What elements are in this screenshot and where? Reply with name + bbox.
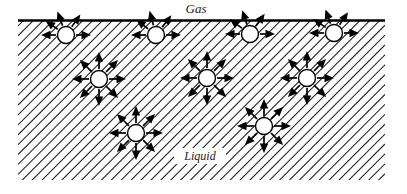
interior-molecule-3-body [299, 70, 316, 87]
liquid-label: Liquid [183, 149, 216, 163]
surface-molecule-3-body [242, 26, 259, 43]
surface-molecule-4-body [326, 25, 343, 42]
figure-canvas: Gas Liquid [0, 0, 407, 194]
surface-molecule-2-body [148, 27, 165, 44]
interior-molecule-5 [237, 99, 291, 153]
force-arrow-head [325, 10, 333, 20]
hatch-line [18, 184, 385, 194]
surface-tension-figure: Gas Liquid [0, 0, 407, 194]
interior-molecule-4 [109, 106, 163, 160]
interior-molecule-5-body [256, 118, 273, 135]
liquid-label-group: Liquid [174, 148, 226, 164]
gas-label: Gas [186, 1, 207, 16]
interior-molecule-1 [72, 52, 126, 106]
interior-molecule-4-body [128, 125, 145, 142]
interior-molecule-2-body [199, 70, 216, 87]
force-arrow-head [241, 10, 249, 20]
interior-molecule-2 [180, 51, 234, 105]
surface-molecule-1-body [58, 27, 75, 44]
interior-molecule-3 [280, 51, 334, 105]
interior-molecule-1-body [91, 71, 108, 88]
